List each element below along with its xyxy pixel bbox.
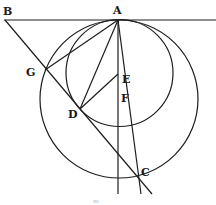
line-de	[80, 74, 118, 109]
label-g: G	[26, 66, 35, 79]
label-c: C	[141, 166, 150, 179]
geometry-diagram: B A G E F D C m	[0, 0, 216, 205]
label-e: E	[122, 73, 130, 86]
label-b: B	[3, 5, 12, 18]
label-f: F	[121, 92, 129, 105]
page-mark: m	[93, 197, 99, 204]
label-a: A	[112, 4, 122, 17]
label-d: D	[68, 108, 78, 121]
